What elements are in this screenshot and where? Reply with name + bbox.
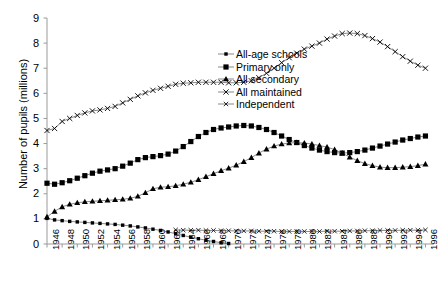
legend-marker-primary-only [216,61,236,73]
legend-item: All-age schools [216,48,307,61]
series-primary-only [44,123,428,187]
legend-item: Primary only [216,61,307,74]
legend-item: Independent [216,98,307,111]
series-all-age-schools [45,217,230,246]
legend-marker-independent [216,98,236,110]
legend-item: All secondary [216,73,307,86]
legend-marker-all-age-schools [216,48,236,60]
plot-area [0,0,440,290]
legend-label: Primary only [236,62,294,73]
series-all-secondary [44,139,428,219]
chart-legend: All-age schools Primary only All seconda… [216,48,307,111]
legend-marker-all-secondary [216,73,236,85]
legend-label: All maintained [236,87,302,98]
series-independent [173,228,427,234]
legend-label: All-age schools [236,49,307,60]
legend-label: All secondary [236,74,299,85]
chart-container: Number of pupils (millions) 0123456789 1… [0,0,440,290]
legend-marker-all-maintained [216,86,236,98]
legend-label: Independent [236,99,294,110]
legend-item: All maintained [216,86,307,99]
